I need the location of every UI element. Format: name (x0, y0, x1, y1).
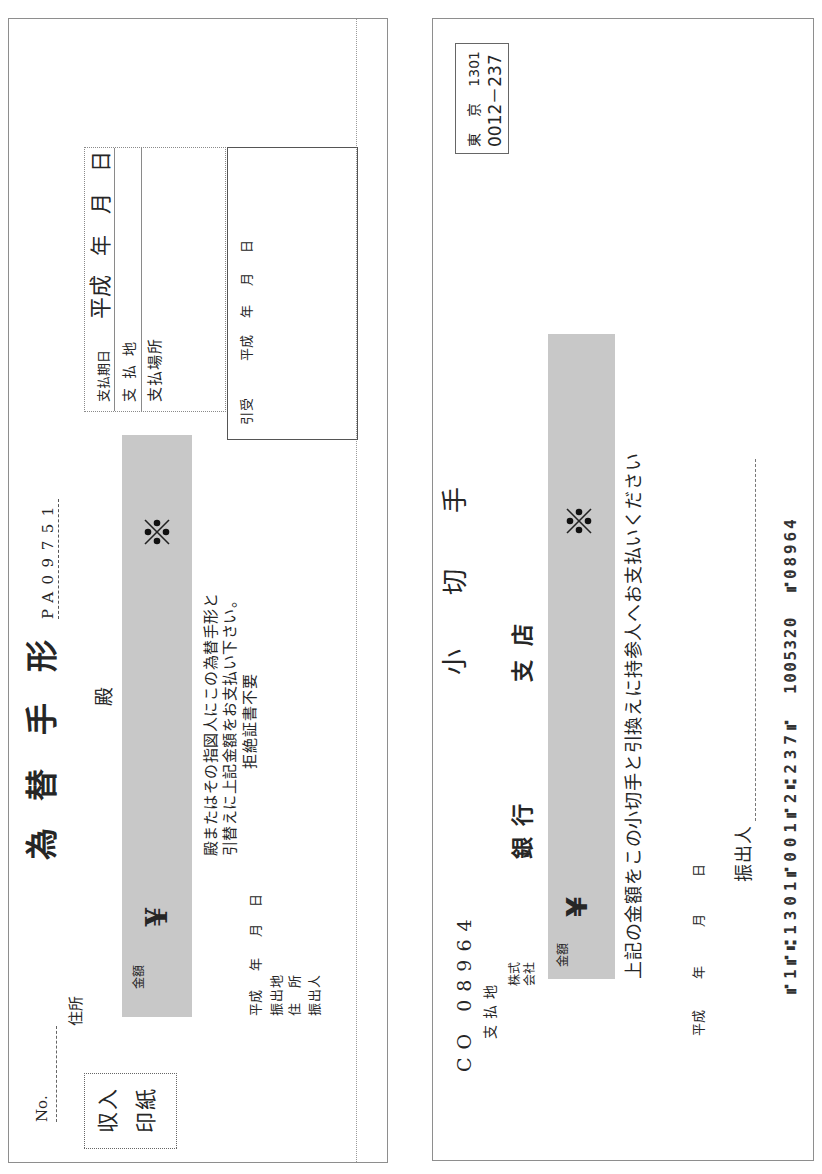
acceptance-box: 引受 平成 年 月 日 (227, 147, 358, 440)
title-char: 手 (26, 703, 58, 735)
payee-honorific: 殿 (95, 687, 114, 706)
issue-date-era: 平成 (249, 990, 262, 1016)
drawer-label: 振出人 (308, 974, 321, 1016)
amount-band: 金額 ¥ (122, 435, 192, 1017)
payment-details-box: 支払期日 平成 年 月 日 支払地 支払場所 (84, 147, 226, 412)
due-date-year-label: 年 (91, 235, 112, 256)
payment-instruction: 上記の金額をこの小切手と引換えに持参人へお支払いください (625, 453, 643, 979)
yen-sign: ¥ (143, 907, 172, 927)
payment-location-label: 支払場所 (148, 338, 163, 402)
instruction-line: 引替えに上記金額をお支払い下さい。 (223, 593, 238, 857)
revenue-stamp-box: 収入 印紙 (84, 1073, 177, 1149)
drawer-label: 振出人 (735, 825, 753, 882)
title-char: 切 (442, 569, 468, 595)
bill-of-exchange-form: 支払期日 平成 年 月 日 支払地 支払場所 引受 平成 年 月 日 為 替 手… (8, 18, 388, 1163)
payment-place-label: 支払地 (483, 979, 497, 1039)
clearing-house-row: 東 京 1301 (467, 51, 481, 147)
row-divider (114, 148, 115, 411)
number-label: No. (35, 1095, 50, 1122)
title-char: 小 (442, 649, 468, 675)
due-date-label: 支払期日 (97, 350, 110, 402)
acceptance-date-month-label: 月 (240, 273, 253, 286)
signature-line (755, 459, 756, 821)
issue-date-month-label: 月 (249, 924, 262, 937)
bank-label-char: 銀 (512, 837, 534, 859)
instruction-line: 殿またはその指図人にこの為替手形と (204, 593, 219, 857)
title-char: 形 (26, 640, 58, 672)
micr-account-segment: 1005320 (783, 616, 799, 694)
issuer-address-label: 住 所 (288, 974, 301, 1016)
issue-date-month-label: 月 (692, 914, 705, 927)
clearing-code-box: 東 京 1301 0012－237 (455, 43, 509, 154)
check-number: CO 08964 (455, 911, 474, 1072)
bank-branch-code: 0012－237 (487, 54, 504, 147)
company-label: 株式 (509, 962, 521, 986)
issue-date-year-label: 年 (249, 958, 262, 971)
address-label: 住所 (69, 996, 84, 1026)
issue-place-label: 振出地 (270, 974, 283, 1016)
payment-place-label: 支払地 (122, 333, 136, 402)
number-field-line (56, 1026, 57, 1122)
amount-band: 金額 ¥ (548, 334, 615, 979)
acceptance-date-era: 平成 (240, 335, 253, 361)
row-divider (141, 148, 142, 411)
title-char: 替 (26, 769, 58, 801)
due-date-month-label: 月 (91, 193, 112, 214)
issue-date-year-label: 年 (692, 966, 705, 979)
yen-sign: ¥ (563, 897, 592, 917)
due-date-era: 平成 (90, 275, 112, 319)
revenue-stamp-label: 印紙 (136, 1087, 157, 1133)
issue-date-day-label: 日 (692, 864, 705, 877)
clearing-city-char: 京 (467, 103, 481, 117)
bank-label-char: 行 (512, 804, 534, 826)
revenue-stamp-label: 収入 (98, 1087, 119, 1133)
acceptance-date-year-label: 年 (240, 305, 253, 318)
serial-number: PA09751 (41, 499, 59, 619)
clearing-city-char: 東 (467, 133, 481, 147)
branch-label-char: 支 (512, 660, 534, 682)
reference-mark-icon (564, 506, 594, 536)
clearing-house-number: 1301 (467, 51, 481, 87)
amount-label: 金額 (557, 943, 569, 967)
title-char: 手 (442, 487, 468, 513)
acceptance-date-day-label: 日 (240, 240, 253, 253)
check-form: 東 京 1301 0012－237 小 切 手 CO 08964 支払地 株式 … (432, 18, 814, 1161)
acceptance-label: 引受 (240, 397, 253, 425)
company-label: 会社 (524, 962, 536, 986)
micr-check-number-segment: ⑈08964 (783, 516, 799, 592)
issue-date-day-label: 日 (249, 894, 262, 907)
title-char: 為 (26, 828, 58, 860)
reference-mark-icon (142, 517, 172, 547)
branch-label-char: 店 (512, 624, 534, 646)
due-date-day-label: 日 (91, 151, 112, 172)
amount-label: 金額 (133, 965, 145, 989)
protest-waived-note: 拒絶証書不要 (243, 673, 258, 769)
issue-date-era: 平成 (692, 1010, 705, 1036)
micr-routing-segment: ⑈1⑈⑆1301⑈001⑈2⑆237⑈ (783, 715, 799, 994)
